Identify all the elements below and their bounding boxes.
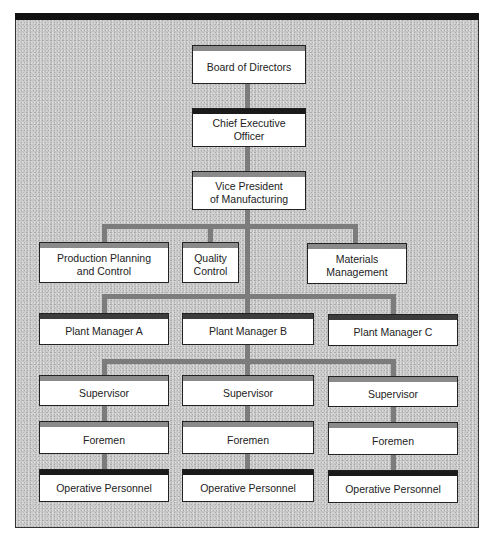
connector-ppc-drop bbox=[102, 224, 107, 243]
connector-pma-drop bbox=[102, 294, 107, 314]
connector-staff-bar bbox=[102, 224, 357, 229]
box-foremen-c: Foremen bbox=[328, 422, 458, 455]
box-supervisor-c: Supervisor bbox=[328, 376, 458, 407]
connector-fore-op-c bbox=[391, 454, 396, 471]
label: Chief Executive Officer bbox=[213, 117, 286, 143]
connector-fore-op-a bbox=[102, 453, 107, 470]
box-plant-manager-a: Plant Manager A bbox=[39, 313, 169, 345]
label: Vice President of Manufacturing bbox=[210, 180, 288, 206]
box-operative-personnel-b: Operative Personnel bbox=[182, 469, 314, 502]
connector-sup-fore-c bbox=[391, 406, 396, 423]
connector-sup-c-drop bbox=[391, 359, 396, 376]
connector-qc-drop bbox=[208, 224, 213, 243]
label: Operative Personnel bbox=[200, 482, 296, 495]
connector-sup-fore-a bbox=[102, 405, 107, 422]
box-operative-personnel-c: Operative Personnel bbox=[328, 470, 458, 503]
connector-plant-bar bbox=[102, 294, 395, 299]
label: Supervisor bbox=[79, 387, 129, 400]
box-quality-control: Quality Control bbox=[182, 242, 239, 283]
connector-mm-drop bbox=[353, 224, 358, 243]
label: Supervisor bbox=[223, 387, 273, 400]
label: Foremen bbox=[83, 434, 125, 447]
box-board-of-directors: Board of Directors bbox=[192, 45, 306, 84]
connector-sup-a-drop bbox=[102, 359, 107, 376]
box-materials-management: Materials Management bbox=[307, 243, 407, 284]
box-operative-personnel-a: Operative Personnel bbox=[39, 469, 169, 502]
label: Board of Directors bbox=[207, 61, 292, 74]
frame-top-bar bbox=[15, 13, 479, 20]
label: Plant Manager C bbox=[354, 326, 433, 339]
box-production-planning-control: Production Planning and Control bbox=[39, 242, 169, 283]
box-foremen-b: Foremen bbox=[182, 421, 314, 454]
label: Materials Management bbox=[326, 253, 387, 279]
connector-ceo-vp bbox=[245, 146, 250, 172]
label: Foremen bbox=[372, 435, 414, 448]
connector-board-ceo bbox=[245, 83, 250, 109]
box-supervisor-a: Supervisor bbox=[39, 375, 169, 406]
connector-supervisor-bar bbox=[102, 359, 395, 364]
label: Foremen bbox=[227, 434, 269, 447]
connector-sup-fore-b bbox=[245, 405, 250, 422]
connector-pmc-drop bbox=[391, 294, 396, 314]
label: Quality Control bbox=[194, 252, 228, 278]
box-vice-president-manufacturing: Vice President of Manufacturing bbox=[192, 171, 306, 210]
box-foremen-a: Foremen bbox=[39, 421, 169, 454]
box-supervisor-b: Supervisor bbox=[182, 375, 314, 406]
connector-fore-op-b bbox=[245, 453, 250, 470]
box-plant-manager-c: Plant Manager C bbox=[328, 314, 458, 346]
box-plant-manager-b: Plant Manager B bbox=[182, 313, 314, 345]
label: Supervisor bbox=[368, 388, 418, 401]
label: Production Planning and Control bbox=[57, 252, 151, 278]
label: Operative Personnel bbox=[345, 483, 441, 496]
box-chief-executive-officer: Chief Executive Officer bbox=[192, 108, 306, 147]
label: Plant Manager B bbox=[209, 325, 287, 338]
label: Operative Personnel bbox=[56, 482, 152, 495]
label: Plant Manager A bbox=[65, 325, 143, 338]
